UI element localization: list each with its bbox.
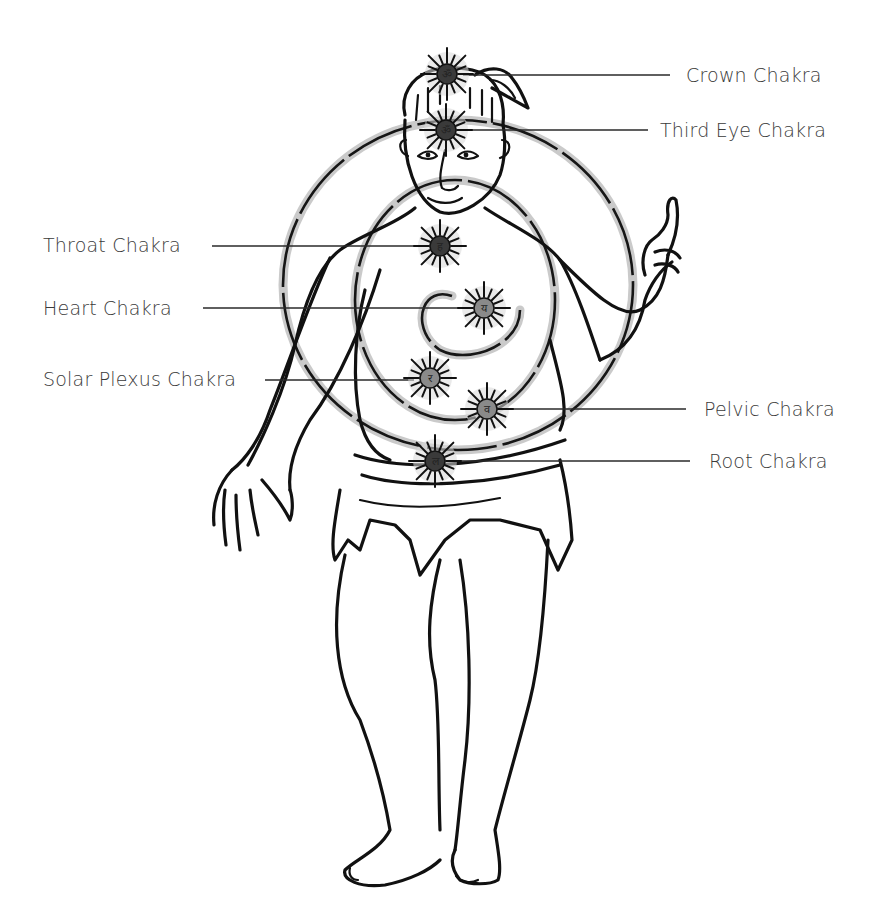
label-solar-plexus-chakra: Solar Plexus Chakra [43, 368, 236, 390]
label-heart-chakra: Heart Chakra [43, 297, 172, 319]
legs [337, 540, 548, 886]
chakra-sun-icon-third-eye: ॐ [420, 104, 472, 156]
chakra-sun-icon-crown: ॐ [421, 48, 473, 100]
chakra-glyph: ॐ [441, 124, 451, 137]
label-crown-chakra: Crown Chakra [686, 64, 822, 86]
chakra-glyph: ॐ [442, 68, 452, 81]
chakra-glyph: य [481, 302, 488, 315]
chakra-sun-icon-solar-plexus: र [404, 352, 456, 404]
label-pelvic-chakra: Pelvic Chakra [704, 398, 835, 420]
chakra-glyph: ह [437, 240, 443, 253]
chakra-sun-icon-pelvic: व [461, 383, 513, 435]
chakra-diagram: ॐॐहयरवल Crown Chakra Third Eye Chakra Th… [0, 0, 890, 915]
label-throat-chakra: Throat Chakra [43, 234, 181, 256]
energy-rings [283, 120, 633, 450]
chakra-sun-icon-throat: ह [414, 220, 466, 272]
label-third-eye-chakra: Third Eye Chakra [660, 119, 826, 141]
chakra-glyph: र [428, 372, 433, 385]
label-root-chakra: Root Chakra [709, 450, 828, 472]
chakra-sun-icon-root: ल [409, 435, 461, 487]
chakra-sun-icon-heart: य [458, 282, 510, 334]
chakra-glyph: ल [432, 455, 440, 468]
chakra-glyph: व [484, 403, 491, 416]
